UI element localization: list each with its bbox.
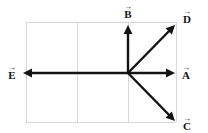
vector-label-letter: B (124, 9, 132, 20)
vector-label-a: →A (182, 65, 190, 81)
vector-d-shaft (128, 30, 170, 73)
vector-e-arrowhead (23, 69, 32, 78)
vector-arrows (23, 25, 175, 121)
vector-diagram-figure: →A→B→C→D→E (0, 0, 208, 133)
vector-b (124, 25, 133, 73)
vector-c-shaft (128, 73, 170, 116)
vector-label-letter: A (182, 70, 190, 81)
vector-a (128, 69, 175, 78)
vector-label-letter: D (183, 14, 191, 25)
vector-label-b: →B (124, 4, 132, 20)
vector-label-letter: E (8, 70, 16, 81)
vector-d (128, 25, 175, 73)
vector-e (23, 69, 128, 78)
vector-diagram-canvas (0, 0, 208, 133)
vector-a-arrowhead (166, 69, 175, 78)
vector-label-c: →C (183, 116, 191, 132)
vector-c (128, 73, 175, 121)
vector-label-letter: C (183, 121, 191, 132)
vector-label-d: →D (183, 9, 191, 25)
vector-label-e: →E (8, 65, 16, 81)
vector-b-arrowhead (124, 25, 133, 34)
